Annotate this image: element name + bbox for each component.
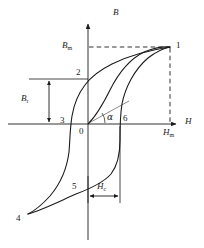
bremanence-label: Br: [21, 94, 29, 103]
bmax-label: Bm: [62, 41, 72, 50]
hm-subscript: m: [170, 132, 175, 138]
bmax-symbol: B: [62, 40, 68, 50]
point-5-label: 5: [72, 182, 77, 191]
point-1-label: 1: [176, 41, 181, 50]
hysteresis-plot-svg: [0, 0, 204, 248]
point-3-label: 3: [60, 116, 65, 125]
alpha-angle-label: α: [107, 113, 113, 122]
hysteresis-diagram-figure: B H 0 Bm Br Hm Hc α 1 2 3 4 5 6: [0, 0, 204, 248]
b-axis-label: B: [113, 8, 119, 17]
hc-symbol: H: [97, 181, 104, 191]
hm-symbol: H: [163, 127, 170, 137]
br-symbol: B: [21, 93, 27, 103]
bmax-subscript: m: [68, 45, 73, 51]
point-6-label: 6: [123, 114, 128, 123]
hc-subscript: c: [104, 186, 107, 192]
origin-label: 0: [79, 127, 84, 136]
point-4-label: 4: [16, 214, 21, 223]
h-axis-label: H: [185, 117, 192, 126]
initial-magnetization-curve: [89, 47, 171, 124]
hmax-label: Hm: [163, 128, 174, 137]
point-2-label: 2: [76, 68, 81, 77]
hcoercive-label: Hc: [97, 182, 106, 191]
br-subscript: r: [27, 98, 29, 104]
